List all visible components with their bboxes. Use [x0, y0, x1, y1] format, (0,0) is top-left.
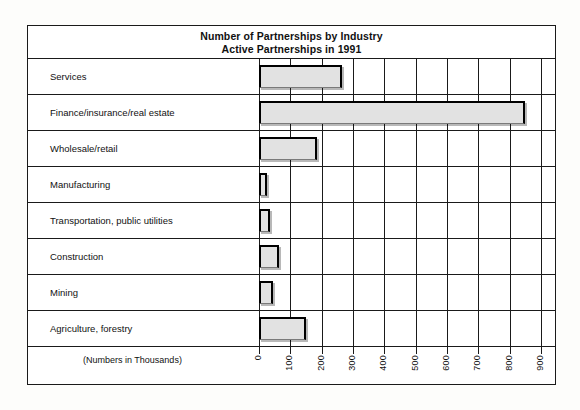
chart-row: Services [28, 59, 555, 95]
category-label-agriculture-forestry: Agriculture, forestry [50, 311, 132, 346]
chart-row: Mining [28, 275, 555, 311]
category-label-finance-insurance-real-estate: Finance/insurance/real estate [50, 95, 175, 130]
chart-subtitle: Active Partnerships in 1991 [222, 43, 362, 56]
x-axis: (Numbers in Thousands) 01002003004005006… [28, 347, 555, 386]
chart-row: Construction [28, 239, 555, 275]
tick-mark-700 [478, 347, 479, 354]
chart-frame: Number of Partnerships by Industry Activ… [27, 25, 556, 385]
chart-row: Agriculture, forestry [28, 311, 555, 347]
chart-row: Manufacturing [28, 167, 555, 203]
axis-units-note: (Numbers in Thousands) [83, 355, 182, 365]
category-label-construction: Construction [50, 239, 103, 274]
tick-label-0: 0 [254, 355, 263, 360]
tick-label-600: 600 [442, 355, 451, 371]
category-label-manufacturing: Manufacturing [50, 167, 110, 202]
tick-label-800: 800 [505, 355, 514, 371]
chart-row: Wholesale/retail [28, 131, 555, 167]
tick-mark-600 [447, 347, 448, 354]
tick-label-400: 400 [379, 355, 388, 371]
tick-mark-300 [353, 347, 354, 354]
category-label-transportation-public-utilities: Transportation, public utilities [50, 203, 173, 238]
category-label-wholesale-retail: Wholesale/retail [50, 131, 118, 166]
tick-mark-0 [259, 347, 260, 354]
category-label-mining: Mining [50, 275, 78, 310]
chart-page: Number of Partnerships by Industry Activ… [0, 0, 580, 410]
tick-label-200: 200 [317, 355, 326, 371]
chart-row: Transportation, public utilities [28, 203, 555, 239]
chart-row: Finance/insurance/real estate [28, 95, 555, 131]
category-label-services: Services [50, 59, 86, 94]
plot-body: Services Finance/insurance/real estate W… [28, 59, 555, 386]
tick-label-300: 300 [348, 355, 357, 371]
tick-mark-800 [510, 347, 511, 354]
tick-label-900: 900 [536, 355, 545, 371]
chart-title-block: Number of Partnerships by Industry Activ… [28, 26, 555, 59]
tick-label-100: 100 [285, 355, 294, 371]
category-rows: Services Finance/insurance/real estate W… [28, 59, 555, 347]
chart-title: Number of Partnerships by Industry [200, 30, 383, 43]
tick-mark-900 [541, 347, 542, 354]
tick-mark-100 [290, 347, 291, 354]
tick-mark-400 [384, 347, 385, 354]
tick-label-500: 500 [411, 355, 420, 371]
tick-mark-200 [322, 347, 323, 354]
tick-mark-500 [416, 347, 417, 354]
tick-label-700: 700 [473, 355, 482, 371]
